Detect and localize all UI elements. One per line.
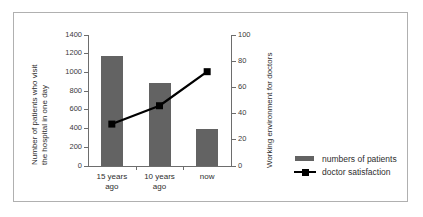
- legend-item-line: doctor satisfaction: [294, 165, 397, 178]
- y-axis-left-tick: [84, 72, 88, 73]
- y-axis-right-tick-label: 100: [238, 31, 251, 39]
- y-axis-right-tick-label: 80: [238, 57, 246, 65]
- legend-label-bars: numbers of patients: [322, 154, 397, 164]
- y-axis-left-tick-label: 600: [52, 105, 82, 113]
- y-axis-left-tick-label: 1000: [52, 68, 82, 76]
- legend-item-bars: numbers of patients: [294, 152, 397, 165]
- x-axis-tick: [136, 166, 137, 170]
- y-axis-left-tick: [84, 147, 88, 148]
- y-axis-left-tick-label: 1200: [52, 49, 82, 57]
- y-axis-left-title: Number of patients who visit the hospita…: [30, 65, 50, 166]
- y-axis-left-title-line2: the hospital in one day: [40, 65, 50, 166]
- y-axis-left-tick: [84, 166, 88, 167]
- y-axis-right-tick: [232, 61, 236, 62]
- y-axis-right-tick-label: 60: [238, 83, 246, 91]
- y-axis-left-tick: [84, 91, 88, 92]
- y-axis-left-tick-label: 0: [52, 162, 82, 170]
- y-axis-right-title: Working environment for doctors: [265, 53, 275, 168]
- x-axis-label-line1: now: [179, 172, 235, 182]
- y-axis-right-tick-label: 0: [238, 162, 242, 170]
- y-axis-right: [231, 35, 232, 167]
- y-axis-right-tick-label: 20: [238, 135, 246, 143]
- y-axis-left-tick: [84, 53, 88, 54]
- x-axis: [88, 166, 232, 167]
- bar-swatch-icon: [294, 153, 316, 164]
- y-axis-right-tick: [232, 35, 236, 36]
- y-axis-right-tick-label: 40: [238, 109, 246, 117]
- chart-figure: 0200400600800100012001400 020406080100 1…: [0, 0, 423, 217]
- y-axis-left-tick: [84, 35, 88, 36]
- y-axis-left-tick-label: 200: [52, 143, 82, 151]
- x-axis-label-line2: ago: [132, 182, 188, 192]
- y-axis-left: [88, 35, 89, 167]
- y-axis-right-tick: [232, 87, 236, 88]
- bar: [149, 83, 171, 166]
- y-axis-left-tick-label: 1400: [52, 31, 82, 39]
- y-axis-left-title-line1: Number of patients who visit: [30, 65, 40, 166]
- line-marker-swatch-icon: [294, 166, 316, 177]
- chart-legend: numbers of patients doctor satisfaction: [294, 152, 397, 178]
- y-axis-left-tick: [84, 109, 88, 110]
- y-axis-left-tick-label: 400: [52, 124, 82, 132]
- bar: [196, 129, 218, 166]
- x-axis-label: now: [179, 172, 235, 182]
- x-axis-tick: [183, 166, 184, 170]
- bar: [101, 56, 123, 166]
- y-axis-right-tick: [232, 113, 236, 114]
- y-axis-right-tick: [232, 139, 236, 140]
- legend-label-line: doctor satisfaction: [322, 167, 391, 177]
- y-axis-left-tick: [84, 128, 88, 129]
- y-axis-left-tick-label: 800: [52, 87, 82, 95]
- y-axis-right-tick: [232, 166, 236, 167]
